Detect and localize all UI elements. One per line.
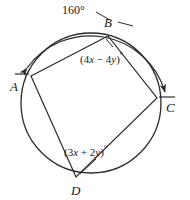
leader-line-b-label	[118, 22, 133, 26]
vertex-label-c: C	[166, 101, 175, 114]
figure-canvas	[0, 0, 190, 200]
vertex-label-d: D	[71, 184, 80, 197]
vertex-label-b: B	[104, 16, 112, 29]
angle-expression-d: (3x + 2y)°	[64, 145, 107, 158]
angle-d-var1: x	[73, 146, 78, 158]
angle-d-operator: +	[81, 146, 87, 158]
angle-b-var1: x	[89, 53, 94, 65]
angle-b-degree-symbol: °	[120, 51, 123, 60]
vertex-label-a: A	[10, 80, 18, 93]
angle-expression-b: (4x − 4y)°	[80, 52, 123, 65]
geometry-figure: 160° A B C D (4x − 4y)° (3x + 2y)°	[0, 0, 190, 200]
leader-line-angle-d	[80, 159, 96, 174]
angle-b-operator: −	[97, 53, 103, 65]
arc-measure-label: 160°	[62, 4, 85, 16]
angle-d-degree-symbol: °	[104, 144, 107, 153]
